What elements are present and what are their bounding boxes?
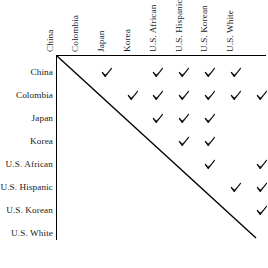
- check-mark-icon: [178, 113, 190, 125]
- check-mark-icon: [256, 205, 268, 217]
- check-mark-icon: [230, 90, 242, 102]
- check-marks-layer: [0, 0, 268, 268]
- check-mark-icon: [256, 90, 268, 102]
- similarity-matrix-figure: ChinaColombiaJapanKoreaU.S. AfricanU.S. …: [0, 0, 268, 268]
- check-mark-icon: [204, 67, 216, 79]
- check-mark-icon: [204, 90, 216, 102]
- check-mark-icon: [152, 90, 164, 102]
- check-mark-icon: [101, 67, 113, 79]
- check-mark-icon: [152, 113, 164, 125]
- check-mark-icon: [230, 182, 242, 194]
- check-mark-icon: [204, 113, 216, 125]
- check-mark-icon: [230, 67, 242, 79]
- check-mark-icon: [204, 136, 216, 148]
- check-mark-icon: [178, 90, 190, 102]
- check-mark-icon: [127, 90, 139, 102]
- check-mark-icon: [256, 182, 268, 194]
- check-mark-icon: [178, 67, 190, 79]
- check-mark-icon: [152, 67, 164, 79]
- check-mark-icon: [256, 159, 268, 171]
- check-mark-icon: [178, 136, 190, 148]
- check-mark-icon: [204, 159, 216, 171]
